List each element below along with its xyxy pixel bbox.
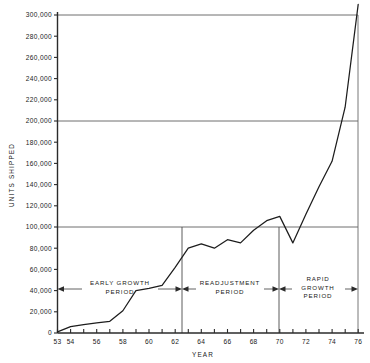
y-tick-label: 200,000: [26, 117, 52, 124]
y-tick-label: 280,000: [26, 33, 52, 40]
x-axis-title: YEAR: [192, 351, 214, 358]
annotation-rapid-growth-period: RAPID GROWTH PERIOD: [279, 275, 358, 299]
x-tick-label: 72: [302, 338, 310, 345]
y-axis-title: UNITS SHIPPED: [8, 143, 15, 207]
annotation-line: PERIOD: [304, 292, 333, 299]
chart-container: 0 20,000 40,000 60,000 80,000 100,000 12…: [0, 0, 370, 363]
units-shipped-line-chart: 0 20,000 40,000 60,000 80,000 100,000 12…: [0, 0, 370, 363]
arrow-head-left-icon: [58, 286, 65, 291]
arrow-head-right-icon: [273, 286, 280, 291]
x-tick-label: 56: [93, 338, 101, 345]
y-tick-label: 80,000: [30, 245, 52, 252]
y-tick-label: 60,000: [30, 266, 52, 273]
annotation-line: RAPID: [306, 275, 329, 282]
y-axis-tick-labels: 0 20,000 40,000 60,000 80,000 100,000 12…: [26, 11, 52, 336]
x-tick-label: 66: [224, 338, 232, 345]
x-tick-label: 68: [250, 338, 258, 345]
annotation-line: READJUSTMENT: [200, 279, 260, 286]
y-tick-label: 0: [48, 329, 52, 336]
annotation-early-growth-period: EARLY GROWTH PERIOD: [58, 279, 183, 295]
y-tick-label: 180,000: [26, 139, 52, 146]
y-tick-label: 40,000: [30, 287, 52, 294]
x-tick-label: 53: [54, 338, 62, 345]
x-axis-tick-labels: 53 54 56 58 60 62 64 66 68 70 72 74 76: [54, 338, 363, 345]
x-tick-label: 60: [145, 338, 153, 345]
x-tick-label: 74: [328, 338, 336, 345]
x-tick-label: 70: [276, 338, 284, 345]
y-tick-label: 300,000: [26, 11, 52, 18]
y-tick-label: 160,000: [26, 160, 52, 167]
y-tick-label: 20,000: [30, 308, 52, 315]
arrow-head-left-icon: [182, 286, 189, 291]
horizontal-gridlines: [58, 15, 359, 227]
y-tick-label: 220,000: [26, 96, 52, 103]
y-tick-label: 100,000: [26, 223, 52, 230]
annotation-line: PERIOD: [216, 288, 245, 295]
x-tick-label: 58: [119, 338, 127, 345]
arrow-head-right-icon: [176, 286, 183, 291]
annotation-line: EARLY GROWTH: [90, 279, 150, 286]
annotation-readjustment-period: READJUSTMENT PERIOD: [182, 279, 279, 295]
x-tick-label: 54: [67, 338, 75, 345]
arrow-head-left-icon: [279, 286, 286, 291]
annotation-line: PERIOD: [106, 288, 135, 295]
y-tick-label: 240,000: [26, 75, 52, 82]
y-tick-label: 120,000: [26, 202, 52, 209]
x-tick-label: 64: [197, 338, 205, 345]
y-tick-label: 260,000: [26, 54, 52, 61]
arrow-head-right-icon: [352, 286, 359, 291]
x-tick-label: 62: [171, 338, 179, 345]
y-tick-label: 140,000: [26, 181, 52, 188]
x-tick-label: 76: [354, 338, 362, 345]
annotation-line: GROWTH: [301, 284, 334, 291]
